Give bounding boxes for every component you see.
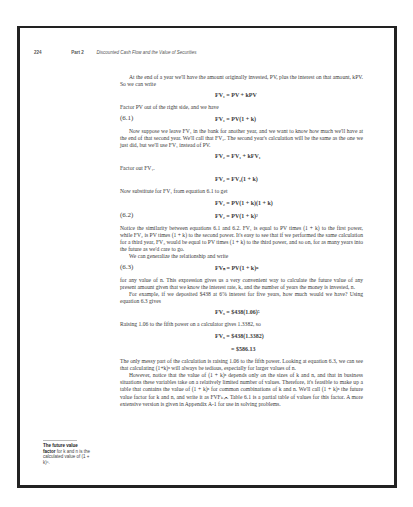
equation-expression: FV₁ = PV + kPV (215, 92, 257, 99)
equation-number: (6.2) (120, 212, 133, 219)
paragraph: We can generalize the relationship and w… (120, 253, 363, 260)
margin-note: The future value factor for k and n is t… (43, 440, 91, 465)
equation-number: (6.1) (120, 115, 133, 122)
equation: FV₂ = FV₁(1 + k) (120, 175, 363, 185)
paragraph: Factor PV out of the right side, and we … (120, 104, 363, 111)
equation-expression: FV₂ = PV(1 + k)(1 + k) (215, 200, 273, 207)
paragraph: However, notice that the value of (1 + k… (120, 372, 363, 408)
paragraph: The only messy part of the calculation i… (120, 358, 363, 372)
equation: FV₂ = PV(1 + k)(1 + k) (120, 199, 363, 209)
equation-expression: = $586.13 (231, 346, 255, 353)
equation: (6.3)FVₙ = PV(1 + k)ⁿ (120, 264, 363, 274)
equation: FV₂ = FV₁ + kFV₁ (120, 152, 363, 162)
paragraph: For example, if we deposited $438 at 6% … (120, 291, 363, 305)
chapter-title: Discounted Cash Flow and the Value of Se… (97, 50, 197, 55)
equation: (6.1)FV₁ = PV(1 + k) (120, 115, 363, 125)
equation: FV₁ = PV + kPV (120, 91, 363, 101)
paragraph: for any value of n. This expression give… (120, 277, 363, 291)
part-label: Part 2 (71, 50, 95, 55)
equation-expression: FV₅ = $438(1.06)⁵ (215, 309, 260, 316)
equation-expression: FVₙ = PV(1 + k)ⁿ (215, 265, 258, 272)
running-head: 224 Part 2 Discounted Cash Flow and the … (34, 50, 196, 55)
equation-expression: FV₁ = PV(1 + k) (215, 116, 256, 123)
paragraph: At the end of a year we'll have the amou… (120, 74, 363, 88)
equation: = $586.13 (120, 345, 363, 355)
equation-expression: FV₂ = FV₁ + kFV₁ (215, 153, 261, 160)
equation: FV₅ = $438(1.3382) (120, 332, 363, 342)
paragraph: Raising 1.06 to the fifth power on a cal… (120, 321, 363, 328)
margin-note-rule (43, 440, 77, 441)
paragraph: Notice the similarity between equations … (120, 225, 363, 254)
equation-expression: FV₂ = PV(1 + k)² (215, 213, 258, 220)
equation: FV₅ = $438(1.06)⁵ (120, 308, 363, 318)
equation: (6.2)FV₂ = PV(1 + k)² (120, 212, 363, 222)
paragraph: Now suppose we leave FV₁ in the bank for… (120, 128, 363, 150)
paragraph: Factor out FV₁. (120, 165, 363, 172)
equation-expression: FV₂ = FV₁(1 + k) (215, 176, 258, 183)
paragraph: Now substitute for FV₁ from equation 6.1… (120, 188, 363, 195)
body-column: At the end of a year we'll have the amou… (120, 74, 363, 408)
equation-expression: FV₅ = $438(1.3382) (215, 333, 264, 340)
page-number: 224 (34, 50, 70, 55)
equation-number: (6.3) (120, 264, 133, 271)
